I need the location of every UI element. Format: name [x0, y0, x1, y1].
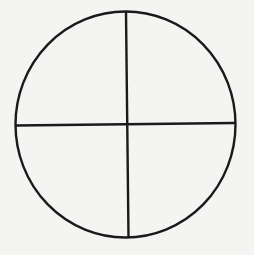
horizontal-divider-line: [16, 123, 235, 126]
quadrant-circle-diagram: [0, 0, 254, 255]
